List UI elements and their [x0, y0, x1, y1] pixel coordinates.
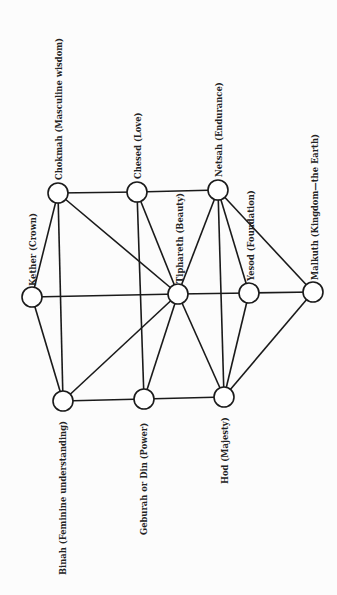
edge-netsah-malkuth [218, 190, 313, 292]
node-kether [22, 287, 42, 307]
label-chesed: Chesed (Love) [133, 112, 143, 179]
edge-kether-binah [32, 297, 63, 401]
label-chokmah: Chokmah (Masculine wisdom) [54, 38, 64, 180]
label-tiphareth: Tiphareth (Beauty) [175, 193, 185, 283]
edge-chokmah-chesed [58, 192, 137, 193]
label-geburah: Geburah or Din (Power) [139, 423, 149, 535]
node-chesed [127, 182, 147, 202]
sefirot-tree-diagram: Kether (Crown)Chokmah (Masculine wisdom)… [0, 0, 337, 595]
label-kether: Kether (Crown) [28, 213, 38, 286]
edge-chesed-netsah [137, 190, 218, 192]
edge-binah-geburah [63, 399, 144, 401]
label-hod: Hod (Majesty) [220, 417, 230, 484]
node-geburah [134, 389, 154, 409]
node-binah [53, 391, 73, 411]
label-netsah: Netsah (Endurance) [214, 82, 224, 177]
node-netsah [208, 180, 228, 200]
node-malkuth [303, 282, 323, 302]
node-chokmah [48, 183, 68, 203]
edge-chesed-tiphareth [137, 192, 178, 294]
node-yesod [239, 283, 259, 303]
label-yesod: Yesod (Foundation) [246, 190, 256, 282]
edge-chokmah-tiphareth [58, 193, 178, 294]
edge-netsah-yesod [218, 190, 249, 293]
edge-hod-tiphareth [178, 294, 224, 397]
node-tiphareth [168, 284, 188, 304]
label-malkuth: Malkuth (Kingdom—the Earth) [310, 134, 320, 280]
edge-kether-tiphareth [32, 294, 178, 297]
label-binah: Binah (Feminine understanding) [58, 421, 68, 575]
node-hod [214, 387, 234, 407]
edge-geburah-hod [144, 397, 224, 399]
